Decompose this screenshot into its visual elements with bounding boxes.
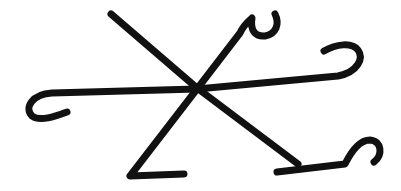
sigil-drawing [0, 0, 401, 191]
